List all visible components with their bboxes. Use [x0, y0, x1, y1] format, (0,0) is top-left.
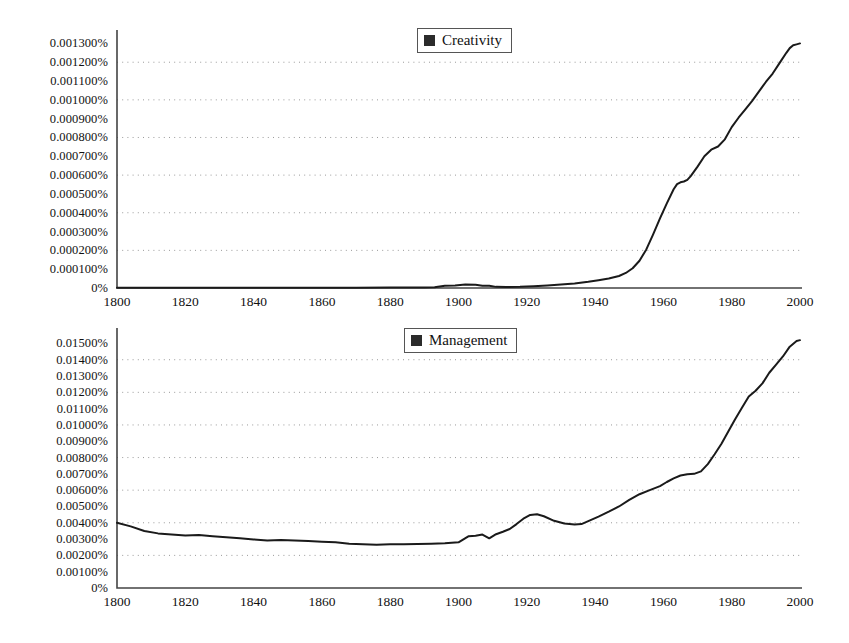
x-tick-label: 1980	[718, 594, 745, 610]
x-tick-label: 2000	[787, 594, 814, 610]
x-tick-label: 1960	[650, 294, 677, 310]
plot-area-creativity: 0%0.000100%0.000200%0.000300%0.000400%0.…	[0, 0, 849, 320]
x-tick-label: 1820	[172, 594, 199, 610]
x-tick-label: 1860	[308, 294, 335, 310]
x-tick-label: 1900	[445, 294, 472, 310]
legend-label: Management	[429, 332, 507, 349]
x-tick-label: 1840	[240, 294, 267, 310]
x-tick-label: 1920	[513, 294, 540, 310]
axis-lines	[117, 328, 802, 588]
legend-swatch-icon	[411, 335, 422, 346]
legend-creativity: Creativity	[417, 28, 512, 53]
x-tick-label: 1840	[240, 594, 267, 610]
x-tick-label: 1860	[308, 594, 335, 610]
x-tick-label: 1820	[172, 294, 199, 310]
x-tick-label: 1900	[445, 594, 472, 610]
axis-lines	[117, 30, 802, 288]
legend-label: Creativity	[442, 32, 502, 49]
x-tick-label: 2000	[787, 294, 814, 310]
data-line	[117, 43, 800, 287]
data-line	[117, 340, 800, 545]
chart-management: 0%0.00100%0.00200%0.00300%0.00400%0.0050…	[0, 320, 849, 643]
plot-area-management: 0%0.00100%0.00200%0.00300%0.00400%0.0050…	[0, 320, 849, 643]
ngram-figure: 0%0.000100%0.000200%0.000300%0.000400%0.…	[0, 0, 849, 643]
legend-management: Management	[404, 328, 517, 353]
x-tick-label: 1880	[377, 594, 404, 610]
x-tick-label: 1800	[104, 594, 131, 610]
x-tick-label: 1800	[104, 294, 131, 310]
chart-creativity: 0%0.000100%0.000200%0.000300%0.000400%0.…	[0, 0, 849, 320]
x-tick-label: 1940	[582, 594, 609, 610]
x-tick-label: 1920	[513, 594, 540, 610]
x-tick-label: 1960	[650, 594, 677, 610]
x-tick-label: 1980	[718, 294, 745, 310]
legend-swatch-icon	[424, 35, 435, 46]
x-tick-label: 1880	[377, 294, 404, 310]
x-tick-label: 1940	[582, 294, 609, 310]
